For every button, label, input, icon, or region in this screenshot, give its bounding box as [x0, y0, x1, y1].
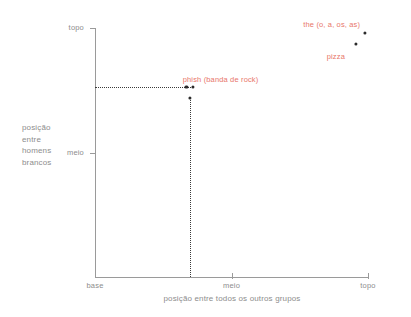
- data-point[interactable]: [354, 43, 357, 46]
- y-tick-label: topo: [24, 23, 84, 32]
- data-point-label: the (o, a, os, as): [303, 20, 360, 29]
- x-tick-mark: [232, 273, 233, 279]
- y-tick-mark: [90, 28, 96, 29]
- data-point-label: pizza: [327, 52, 345, 61]
- horizontal-guide-line: [95, 87, 193, 88]
- y-tick-mark: [90, 153, 96, 154]
- x-axis-title: posição entre todos os outros grupos: [95, 294, 369, 303]
- data-point[interactable]: [185, 86, 188, 89]
- data-point-label: phish (banda de rock): [183, 75, 259, 84]
- x-tick-label: meio: [202, 281, 262, 290]
- vertical-guide-line: [190, 98, 191, 277]
- data-point[interactable]: [191, 86, 194, 89]
- y-axis-title-line: homens: [22, 145, 84, 157]
- x-tick-label: base: [65, 281, 125, 290]
- data-point[interactable]: [364, 31, 367, 34]
- x-tick-label: topo: [338, 281, 398, 290]
- y-axis-title-line: posição: [22, 122, 84, 134]
- y-axis-title-line: brancos: [22, 157, 84, 169]
- scatter-chart: meiotopo basemeiotopo posiçãoentrehomens…: [0, 0, 411, 317]
- y-axis-title-line: entre: [22, 134, 84, 146]
- data-point[interactable]: [188, 96, 191, 99]
- x-tick-mark: [368, 273, 369, 279]
- y-axis-title: posiçãoentrehomensbrancos: [22, 122, 84, 168]
